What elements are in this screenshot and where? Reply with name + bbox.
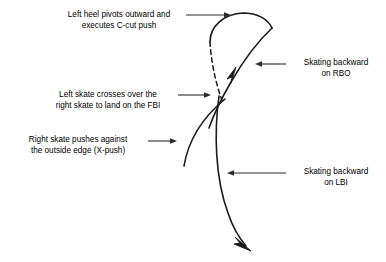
x-push-edge-curve [184,99,225,166]
annotation-crossover-line2: right skate to land on the FBI [42,100,174,111]
annotation-rbo-line2: on RBO [290,68,382,79]
annotation-skating-backward-lbi: Skating backward on LBI [290,166,382,188]
leader-line-cross [178,92,211,98]
skating-path-diagram [0,0,386,262]
rbo-edge-curve [209,28,272,128]
leader-line-rbo [255,61,286,67]
lbi-direction-arrowhead [234,237,251,251]
annotation-x-push: Right skate pushes against the outside e… [12,134,144,156]
annotation-x-push-line2: the outside edge (X-push) [12,145,144,156]
c-cut-dashed-trace [210,42,223,103]
annotation-lbi-line2: on LBI [290,177,382,188]
diagram-page: Left heel pivots outward and executes C-… [0,0,386,262]
annotation-rbo-line1: Skating backward [304,58,369,67]
annotation-heel-pivot: Left heel pivots outward and executes C-… [56,9,182,31]
annotation-heel-pivot-line2: executes C-cut push [56,20,182,31]
annotation-lbi-line1: Skating backward [304,167,369,176]
annotation-skating-backward-rbo: Skating backward on RBO [290,57,382,79]
leader-line-heel [186,12,231,18]
annotation-x-push-line1: Right skate pushes against [29,135,127,144]
lbi-edge-curve [216,96,246,246]
annotation-heel-pivot-line1: Left heel pivots outward and [68,10,170,19]
leader-line-lbi [227,170,286,176]
annotation-crossover-line1: Left skate crosses over the [59,90,157,99]
leader-line-xpush [148,138,177,144]
annotation-crossover: Left skate crosses over the right skate … [42,89,174,111]
